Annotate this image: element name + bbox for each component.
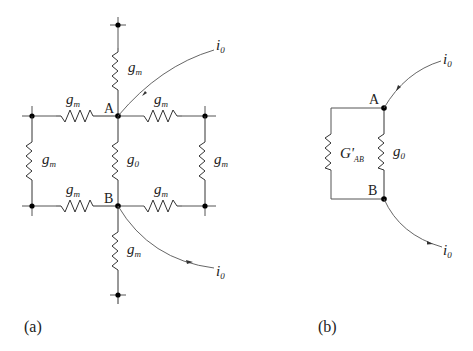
- node-a-label: A: [104, 101, 115, 116]
- svg-text:gm: gm: [127, 241, 142, 259]
- resistor-equivalent: G'AB: [325, 134, 364, 170]
- node-b-label-b: B: [368, 183, 377, 198]
- current-out-label-b: i0: [443, 242, 452, 260]
- panel-b: G'AB g0 A B i0 i0 (b): [318, 51, 452, 336]
- panel-b-caption: (b): [318, 318, 337, 336]
- resistor-left-top-label: gm: [66, 91, 81, 109]
- svg-text:g0: g0: [127, 151, 140, 169]
- svg-text:gm: gm: [214, 151, 229, 169]
- current-in-arrow-b: [384, 61, 441, 108]
- resistor-left-vertical: gm: [26, 116, 57, 206]
- node-right-bottom: [202, 203, 207, 208]
- top-terminal: [110, 17, 126, 48]
- resistor-top-label: gm: [128, 59, 143, 77]
- circuit-diagram: gm gm gm A gm g0: [0, 0, 473, 351]
- current-out-label: i0: [216, 263, 225, 281]
- svg-text:G'AB: G'AB: [340, 145, 364, 164]
- svg-text:gm: gm: [42, 151, 57, 169]
- current-out-arrow: [118, 206, 214, 268]
- current-in-label-b: i0: [443, 51, 452, 69]
- node-b-label: B: [104, 191, 113, 206]
- resistor-right-vertical: gm: [199, 116, 229, 206]
- panel-a: gm gm gm A gm g0: [22, 17, 229, 336]
- resistor-center-b: g0: [378, 108, 406, 199]
- current-out-arrowhead-b: [427, 241, 433, 245]
- current-in-label: i0: [216, 37, 225, 55]
- svg-text:g0: g0: [393, 143, 406, 161]
- resistor-left-bottom-label: gm: [66, 181, 81, 199]
- node-left-bottom: [29, 203, 34, 208]
- resistor-right-bottom-label: gm: [154, 181, 169, 199]
- resistor-bottom: gm: [112, 206, 142, 304]
- node-a-label-b: A: [369, 92, 380, 107]
- resistor-center: g0: [112, 116, 140, 206]
- bottom-terminal: [115, 292, 120, 297]
- current-in-arrowhead: [142, 91, 147, 96]
- resistor-right-top-label: gm: [154, 91, 169, 109]
- panel-a-caption: (a): [24, 318, 42, 336]
- current-out-arrow-b: [384, 199, 442, 247]
